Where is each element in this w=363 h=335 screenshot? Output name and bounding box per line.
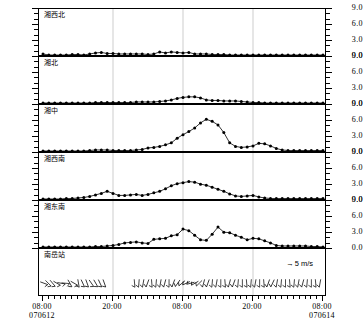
- x-minor-tick: [176, 296, 177, 299]
- panel-label-1: 湘西北: [44, 11, 65, 19]
- x-minor-tick: [316, 296, 317, 299]
- y-minor-tick-right: [326, 109, 330, 110]
- y-minor-tick-right: [326, 29, 330, 30]
- y-tick-label: 3.0: [329, 36, 363, 44]
- wind-barb: [157, 279, 161, 287]
- wind-barb: [166, 279, 169, 287]
- wind-barb: [235, 279, 239, 287]
- x-minor-tick: [89, 296, 90, 299]
- y-tick-mark-right: [326, 168, 332, 169]
- y-minor-tick-right: [326, 243, 330, 244]
- y-minor-tick: [34, 67, 38, 68]
- y-tick-mark-right: [326, 200, 332, 201]
- wind-scale-legend: →5 m/s: [286, 259, 313, 268]
- y-minor-tick: [34, 189, 38, 190]
- wind-barb: [286, 279, 290, 287]
- x-tick-time: 20:00: [92, 302, 132, 311]
- x-minor-tick: [194, 296, 195, 299]
- chart-panel-3: 湘中: [38, 104, 326, 152]
- y-minor-tick: [34, 99, 38, 100]
- x-minor-tick: [299, 296, 300, 299]
- x-major-tick: [112, 296, 113, 301]
- y-minor-tick: [34, 115, 38, 116]
- y-minor-tick: [34, 205, 38, 206]
- y-tick-mark-right: [326, 216, 332, 217]
- chart-panel-2: 湘北: [38, 56, 326, 104]
- x-minor-tick: [246, 296, 247, 299]
- x-minor-tick: [258, 296, 259, 299]
- wind-barb: [304, 279, 308, 287]
- y-tick-mark-right: [326, 88, 332, 89]
- x-minor-tick: [83, 296, 84, 299]
- x-minor-tick: [118, 296, 119, 299]
- y-tick-mark-right: [326, 120, 332, 121]
- y-tick-label: 3.0: [329, 228, 363, 236]
- wind-barb: [295, 279, 299, 287]
- y-tick-label: 9.0: [329, 100, 363, 108]
- wind-barb: [243, 279, 247, 287]
- y-minor-tick: [34, 77, 38, 78]
- y-minor-tick: [34, 83, 38, 84]
- x-minor-tick: [159, 296, 160, 299]
- y-minor-tick-right: [326, 173, 330, 174]
- wind-barb: [261, 279, 265, 287]
- y-tick-label: 6.0: [329, 164, 363, 172]
- x-major-tick: [182, 296, 183, 301]
- y-tick-label: 6.0: [329, 68, 363, 76]
- x-minor-tick: [95, 296, 96, 299]
- y-minor-tick-right: [326, 211, 330, 212]
- y-minor-tick: [34, 221, 38, 222]
- y-tick-mark: [32, 8, 38, 9]
- y-minor-tick-right: [326, 237, 330, 238]
- y-minor-tick-right: [326, 61, 330, 62]
- x-minor-tick: [48, 296, 49, 299]
- y-tick-mark: [32, 104, 38, 105]
- x-tick-label-5: 08:00070614: [302, 302, 342, 320]
- series-plot-3: [39, 105, 325, 151]
- y-minor-tick: [34, 45, 38, 46]
- y-tick-label: 0.0: [329, 244, 363, 252]
- y-tick-label: 9.0: [329, 52, 363, 60]
- x-tick-label-1: 08:00070612: [22, 302, 62, 320]
- y-minor-tick-right: [326, 179, 330, 180]
- y-minor-tick: [34, 125, 38, 126]
- y-tick-mark-right: [326, 72, 332, 73]
- right-arrow-icon: →: [286, 259, 294, 268]
- x-minor-tick: [235, 296, 236, 299]
- y-tick-mark-right: [326, 136, 332, 137]
- panel-label-5: 湘东南: [44, 203, 65, 211]
- y-tick-label: 3.0: [329, 180, 363, 188]
- y-minor-tick: [34, 157, 38, 158]
- wind-barb: [200, 279, 205, 288]
- wind-barb: [278, 279, 282, 287]
- x-minor-tick: [223, 296, 224, 299]
- y-tick-label: 3.0: [329, 84, 363, 92]
- wind-barb: [226, 279, 231, 288]
- wind-barb: [39, 282, 48, 288]
- y-tick-mark-right: [326, 40, 332, 41]
- y-minor-tick: [34, 29, 38, 30]
- x-minor-tick: [54, 296, 55, 299]
- x-minor-tick: [281, 296, 282, 299]
- x-minor-tick: [141, 296, 142, 299]
- wind-barb: [252, 279, 256, 287]
- x-tick-label-2: 20:00: [92, 302, 132, 311]
- x-major-tick: [42, 296, 43, 301]
- chart-panel-1: 湘西北: [38, 8, 326, 56]
- wind-barb: [257, 279, 260, 287]
- x-minor-tick: [200, 296, 201, 299]
- series-plot-4: [39, 153, 325, 199]
- wind-barb: [186, 279, 195, 284]
- y-tick-mark-right: [326, 184, 332, 185]
- panel-label-6: 南岳站: [44, 251, 65, 259]
- y-tick-label: 6.0: [329, 212, 363, 220]
- y-tick-mark-right: [326, 56, 332, 57]
- y-minor-tick: [34, 61, 38, 62]
- y-tick-mark: [32, 232, 38, 233]
- y-minor-tick-right: [326, 115, 330, 116]
- wind-barb: [222, 279, 226, 287]
- y-minor-tick-right: [326, 141, 330, 142]
- y-tick-mark: [32, 216, 38, 217]
- wind-barb: [148, 279, 152, 287]
- wind-barb: [248, 279, 252, 287]
